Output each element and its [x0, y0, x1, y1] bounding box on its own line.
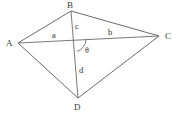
geometry-canvas: A B C D a b c d θ: [0, 0, 179, 114]
vertex-label-B: B: [67, 0, 73, 10]
segment-label-d: d: [79, 65, 84, 75]
edge-DA: [18, 43, 78, 98]
vertex-label-D: D: [74, 102, 81, 112]
vertex-label-A: A: [6, 38, 13, 48]
segment-label-b: b: [108, 27, 112, 37]
edge-CD: [78, 36, 159, 98]
segment-label-c: c: [75, 21, 79, 31]
vertex-label-C: C: [165, 31, 171, 41]
edge-BC: [71, 11, 159, 36]
geometry-diagram: A B C D a b c d θ: [0, 0, 179, 114]
diagonal-AC: [18, 36, 159, 43]
angle-label-theta: θ: [85, 46, 89, 55]
edge-AB: [18, 11, 71, 43]
segment-label-a: a: [52, 30, 56, 40]
